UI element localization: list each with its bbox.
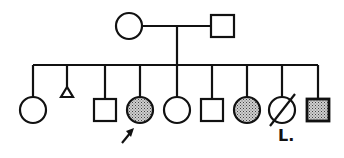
child-4-female-affected-proband xyxy=(127,97,153,123)
child-5-female xyxy=(164,97,190,123)
child-1-female xyxy=(20,97,46,123)
child-9-male-affected xyxy=(307,99,329,121)
child-8-label: L. xyxy=(278,126,294,145)
mother-symbol xyxy=(116,13,142,39)
pedigree-chart: L. xyxy=(0,0,344,158)
child-7-female-affected xyxy=(234,97,260,123)
father-symbol xyxy=(211,15,234,37)
child-3-male xyxy=(94,99,116,121)
child-6-male xyxy=(201,99,223,121)
child-2-miscarriage xyxy=(61,87,73,97)
